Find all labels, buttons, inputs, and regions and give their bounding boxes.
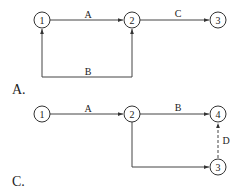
svg-text:1: 1 (40, 109, 45, 120)
svg-text:3: 3 (216, 15, 221, 26)
svg-text:2: 2 (130, 109, 135, 120)
svg-text:2: 2 (130, 15, 135, 26)
svg-text:4: 4 (216, 109, 221, 120)
edge-c-2-3 (132, 122, 209, 167)
diagram-c: A B D 1 2 4 3 C. (12, 102, 230, 189)
edge-label-b: B (175, 102, 182, 113)
node-a-2: 2 (124, 12, 140, 28)
node-a-1: 1 (34, 12, 50, 28)
edge-label-c: C (175, 8, 182, 19)
network-diagrams: A C B 1 2 3 A. A B D 1 2 (0, 0, 245, 189)
node-c-3: 3 (210, 159, 226, 175)
node-a-3: 3 (210, 12, 226, 28)
node-c-2: 2 (124, 106, 140, 122)
edge-label-a: A (84, 9, 92, 20)
diagram-a: A C B 1 2 3 A. (12, 8, 226, 97)
node-c-1: 1 (34, 106, 50, 122)
edge-label-b: B (85, 66, 92, 77)
panel-label-a: A. (12, 82, 26, 97)
edge-label-d: D (222, 135, 229, 146)
edge-label-a: A (84, 103, 92, 114)
svg-text:1: 1 (40, 15, 45, 26)
node-c-4: 4 (210, 106, 226, 122)
svg-text:3: 3 (216, 162, 221, 173)
panel-label-c: C. (12, 174, 25, 189)
